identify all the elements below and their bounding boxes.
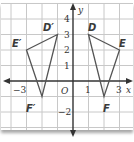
y-tick-4: 4 <box>64 14 70 24</box>
x-axis-label: x <box>126 85 131 95</box>
y-axis-label: y <box>77 5 84 15</box>
vertex-label-E: E <box>119 38 126 49</box>
vertex-label-D-prime: D′ <box>43 22 54 33</box>
vertex-label-F-prime: F′ <box>26 103 36 114</box>
y-tick-1: 1 <box>64 61 70 71</box>
x-tick-neg3: −3 <box>13 85 27 95</box>
x-axis-left-arrow-icon <box>3 78 10 84</box>
y-tick-neg2: −2 <box>58 107 71 117</box>
x-tick-1: 1 <box>85 85 91 95</box>
x-axis-right-arrow-icon <box>126 78 133 84</box>
x-tick-3: 3 <box>116 85 122 95</box>
y-axis-down-arrow-icon <box>70 130 76 137</box>
y-tick-2: 2 <box>64 45 70 55</box>
vertex-label-F: F <box>103 103 110 114</box>
y-axis-up-arrow-icon <box>70 3 76 10</box>
coordinate-plane: y x O 4 3 2 1 −2 −3 1 3 D E F D′ E′ F′ <box>0 0 134 142</box>
y-tick-3: 3 <box>64 30 70 40</box>
origin-label: O <box>61 86 69 96</box>
vertex-label-D: D <box>88 22 96 33</box>
vertex-label-E-prime: E′ <box>12 38 22 49</box>
x-axis <box>3 78 133 84</box>
